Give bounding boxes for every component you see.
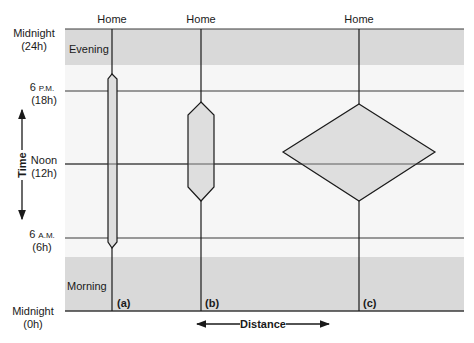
svg-text:(24h): (24h)	[21, 40, 47, 52]
evening-band	[65, 29, 464, 65]
home-label-a: Home	[97, 13, 126, 25]
home-label-b: Home	[186, 13, 215, 25]
svg-text:(0h): (0h)	[23, 318, 43, 330]
path-label-b: (b)	[205, 297, 219, 309]
distance-axis-label: Distance	[240, 318, 286, 330]
time-geography-diagram: Home Home Home (a) (b) (c) Evening Morni…	[0, 0, 474, 343]
path-label-c: (c)	[363, 297, 377, 309]
evening-label: Evening	[69, 43, 109, 55]
svg-text:(12h): (12h)	[31, 167, 57, 179]
tick-6am: 6A.M.	[29, 228, 55, 240]
svg-text:(6h): (6h)	[32, 241, 52, 253]
tick-midnight-0: Midnight	[12, 305, 54, 317]
morning-label: Morning	[67, 280, 107, 292]
tick-midnight-24: Midnight	[13, 27, 55, 39]
prism-a	[108, 74, 117, 248]
svg-text:(18h): (18h)	[31, 94, 57, 106]
tick-6pm: 6P.M.	[30, 81, 55, 93]
time-axis-label: Time	[16, 152, 28, 177]
tick-noon: Noon	[31, 154, 57, 166]
prism-b	[188, 102, 214, 201]
home-label-c: Home	[344, 13, 373, 25]
path-label-a: (a)	[117, 297, 131, 309]
